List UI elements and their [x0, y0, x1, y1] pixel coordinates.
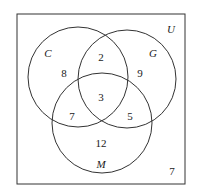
universe-label: U — [167, 23, 176, 35]
set-g-label: G — [149, 47, 157, 59]
region-c-g: 2 — [98, 51, 104, 63]
region-g-m: 5 — [127, 110, 133, 122]
set-c-label: C — [44, 47, 52, 59]
region-c-only: 8 — [61, 67, 67, 79]
region-m-only: 12 — [96, 137, 107, 149]
region-outside: 7 — [169, 165, 175, 177]
region-c-g-m: 3 — [98, 91, 104, 103]
venn-diagram: U C G M 8 2 9 3 7 5 12 7 — [0, 0, 197, 192]
set-m-label: M — [95, 158, 106, 170]
region-g-only: 9 — [137, 67, 143, 79]
region-c-m: 7 — [69, 110, 75, 122]
